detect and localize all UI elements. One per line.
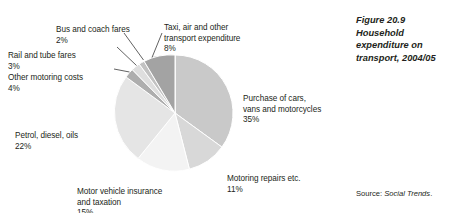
caption-column: Figure 20.9 Household expenditure on tra… bbox=[356, 14, 454, 64]
figure-household-transport-expenditure: Bus and coach fares 2% Rail and tube far… bbox=[0, 0, 462, 213]
figure-caption: Figure 20.9 Household expenditure on tra… bbox=[356, 14, 454, 64]
label-insurance-text: Motor vehicle insurance and taxation bbox=[77, 187, 162, 206]
label-purchase-of-cars: Purchase of cars, vans and motorcycles 3… bbox=[243, 84, 329, 136]
label-rail-text: Rail and tube fares bbox=[8, 51, 76, 60]
label-insurance-percent: 15% bbox=[77, 208, 197, 213]
source-publication-name: Social Trends bbox=[384, 189, 430, 198]
label-petrol-text: Petrol, diesel, oils bbox=[15, 131, 78, 140]
label-other-motoring-text: Other motoring costs bbox=[8, 73, 83, 82]
label-bus-text: Bus and coach fares bbox=[56, 25, 130, 34]
label-purchase-percent: 35% bbox=[243, 115, 329, 125]
label-taxi-air-and-other-transport: Taxi, air and other transport expenditur… bbox=[164, 13, 268, 65]
label-repairs-percent: 11% bbox=[227, 185, 327, 195]
label-petrol-diesel-oils: Petrol, diesel, oils 22% bbox=[15, 121, 115, 163]
source-note: Source: Social Trends. bbox=[356, 189, 460, 199]
figure-caption-title: Figure 20.9 bbox=[356, 14, 454, 27]
label-other-motoring-costs: Other motoring costs 4% bbox=[8, 63, 120, 105]
source-suffix: . bbox=[430, 189, 432, 198]
label-taxi-percent: 8% bbox=[164, 44, 268, 54]
label-motor-vehicle-insurance: Motor vehicle insurance and taxation 15% bbox=[77, 177, 197, 213]
label-repairs-text: Motoring repairs etc. bbox=[227, 174, 301, 183]
label-taxi-text: Taxi, air and other transport expenditur… bbox=[164, 23, 240, 42]
source-prefix: Source: bbox=[356, 189, 384, 198]
label-other-motoring-percent: 4% bbox=[8, 84, 120, 94]
label-motoring-repairs: Motoring repairs etc. 11% bbox=[227, 164, 327, 206]
figure-caption-body: Household expenditure on transport, 2004… bbox=[356, 27, 454, 65]
label-purchase-text: Purchase of cars, vans and motorcycles bbox=[243, 94, 321, 113]
label-petrol-percent: 22% bbox=[15, 142, 115, 152]
